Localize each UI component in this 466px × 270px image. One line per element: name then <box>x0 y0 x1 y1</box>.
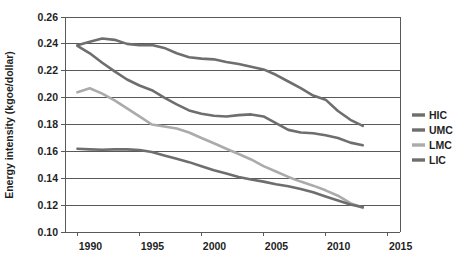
y-tick-label: 0.14 <box>38 172 59 184</box>
y-axis-ticks: 0.100.120.140.160.180.200.220.240.26 <box>38 11 65 238</box>
x-tick-label: 2005 <box>265 240 289 252</box>
y-tick-label: 0.10 <box>38 226 59 238</box>
y-tick-label: 0.20 <box>38 91 59 103</box>
legend-label-umc: UMC <box>429 124 453 136</box>
y-tick-label: 0.12 <box>38 199 59 211</box>
y-tick-label: 0.16 <box>38 145 59 157</box>
x-axis-ticks: 199019952000200520102015 <box>77 232 412 252</box>
x-tick-label: 1995 <box>141 240 165 252</box>
y-tick-label: 0.24 <box>38 37 59 49</box>
x-tick-label: 2010 <box>327 240 351 252</box>
x-tick-label: 2015 <box>389 240 413 252</box>
x-tick-label: 1990 <box>79 240 103 252</box>
chart-canvas: 0.100.120.140.160.180.200.220.240.26 199… <box>0 0 466 270</box>
y-tick-label: 0.18 <box>38 118 59 130</box>
y-tick-label: 0.26 <box>38 11 59 23</box>
legend: HICUMCLMCLIC <box>412 109 453 166</box>
energy-intensity-chart: 0.100.120.140.160.180.200.220.240.26 199… <box>0 0 466 270</box>
legend-label-lmc: LMC <box>429 139 452 151</box>
legend-label-hic: HIC <box>429 109 448 121</box>
legend-label-lic: LIC <box>429 154 446 166</box>
y-tick-label: 0.22 <box>38 64 59 76</box>
x-tick-label: 2000 <box>203 240 227 252</box>
y-axis-title: Energy intensity (kgoe/dollar) <box>3 51 15 199</box>
